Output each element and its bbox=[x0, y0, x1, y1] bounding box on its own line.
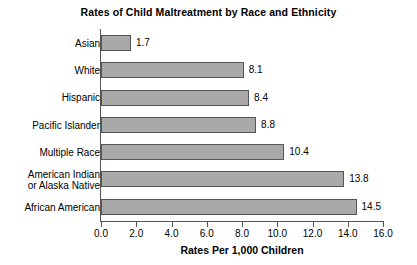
x-axis-tick bbox=[101, 222, 102, 227]
x-axis-tick-label: 10.0 bbox=[268, 228, 287, 239]
x-axis-tick-label: 0.0 bbox=[94, 228, 108, 239]
bar-value-label: 8.4 bbox=[254, 89, 268, 106]
bar-row: 10.4 bbox=[101, 139, 383, 166]
bar-value-label: 13.8 bbox=[349, 170, 368, 187]
y-axis-category-label: Pacific Islander bbox=[4, 120, 100, 132]
x-axis-tick bbox=[207, 222, 208, 227]
bar-value-label: 14.5 bbox=[362, 198, 381, 215]
y-axis-category-label: Multiple Race bbox=[4, 147, 100, 159]
bar-value-label: 10.4 bbox=[289, 143, 308, 160]
x-axis-tick bbox=[277, 222, 278, 227]
y-axis-category-label: African American bbox=[4, 202, 100, 214]
bar bbox=[101, 62, 244, 78]
category-label-line: American Indian bbox=[4, 169, 100, 181]
bar bbox=[101, 90, 249, 106]
x-axis-tick-label: 16.0 bbox=[373, 228, 392, 239]
bar-row: 8.4 bbox=[101, 85, 383, 112]
y-axis-category-label: Asian bbox=[4, 38, 100, 50]
bar-chart: Rates of Child Maltreatment by Race and … bbox=[0, 0, 417, 265]
x-axis-tick-label: 8.0 bbox=[235, 228, 249, 239]
x-axis-tick bbox=[348, 222, 349, 227]
bar bbox=[101, 199, 357, 215]
category-label-line: Hispanic bbox=[4, 92, 100, 104]
y-axis-category-label: American Indianor Alaska Native bbox=[4, 169, 100, 192]
bar bbox=[101, 35, 131, 51]
y-axis-category-label: White bbox=[4, 65, 100, 77]
category-label-line: African American bbox=[4, 202, 100, 214]
bar bbox=[101, 117, 256, 133]
bar-row: 8.8 bbox=[101, 112, 383, 139]
x-axis-title: Rates Per 1,000 Children bbox=[101, 244, 383, 256]
bar-value-label: 8.8 bbox=[261, 116, 275, 133]
x-axis-tick bbox=[383, 222, 384, 227]
category-label-line: White bbox=[4, 65, 100, 77]
bar-row: 13.8 bbox=[101, 166, 383, 193]
bar-row: 14.5 bbox=[101, 194, 383, 221]
x-axis-tick bbox=[136, 222, 137, 227]
category-label-line: Pacific Islander bbox=[4, 120, 100, 132]
x-axis-tick-label: 2.0 bbox=[129, 228, 143, 239]
bar-row: 1.7 bbox=[101, 30, 383, 57]
bar-value-label: 8.1 bbox=[249, 61, 263, 78]
x-axis-tick-label: 4.0 bbox=[165, 228, 179, 239]
x-axis-tick-label: 12.0 bbox=[303, 228, 322, 239]
category-label-line: Multiple Race bbox=[4, 147, 100, 159]
bar-value-label: 1.7 bbox=[136, 34, 150, 51]
x-axis-tick-label: 6.0 bbox=[200, 228, 214, 239]
x-axis-tick-labels: 0.02.04.06.08.010.012.014.016.0 bbox=[101, 228, 383, 242]
plot-area: 1.78.18.48.810.413.814.5 bbox=[101, 30, 383, 221]
bar bbox=[101, 144, 284, 160]
x-axis-tick bbox=[313, 222, 314, 227]
chart-title: Rates of Child Maltreatment by Race and … bbox=[0, 6, 417, 18]
category-label-line: or Alaska Native bbox=[4, 180, 100, 192]
category-label-line: Asian bbox=[4, 38, 100, 50]
x-axis-tick bbox=[242, 222, 243, 227]
x-axis-tick-label: 14.0 bbox=[338, 228, 357, 239]
y-axis-category-label: Hispanic bbox=[4, 92, 100, 104]
x-axis-tick bbox=[172, 222, 173, 227]
bar bbox=[101, 171, 344, 187]
bar-row: 8.1 bbox=[101, 57, 383, 84]
y-axis-category-labels: AsianWhiteHispanicPacific IslanderMultip… bbox=[0, 30, 100, 221]
